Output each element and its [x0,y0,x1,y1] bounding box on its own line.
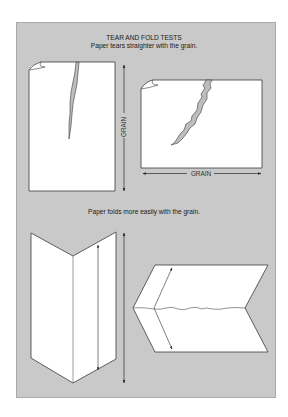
diagram-artwork: GRAIN GRAIN [0,0,288,417]
grain-label-vertical: GRAIN [120,116,127,137]
fold-with-grain-sheet [31,232,116,383]
fold-against-grain-sheet [133,265,268,352]
tear-against-grain-sheet [141,80,262,168]
grain-arrow-horizontal: GRAIN [143,170,261,177]
grain-label-horizontal: GRAIN [191,170,212,177]
grain-arrow-vertical: GRAIN [120,65,127,191]
tear-with-grain-sheet [29,62,115,191]
